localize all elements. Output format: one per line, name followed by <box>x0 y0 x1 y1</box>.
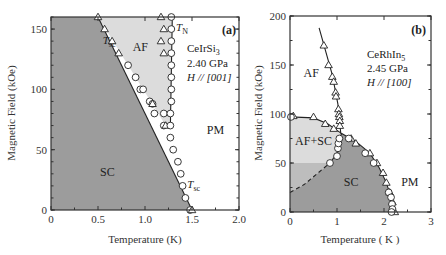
x-tick-label: 2.0 <box>232 213 246 225</box>
x-tick-label: 0 <box>48 213 54 225</box>
y-axis-label: Magnetic Field (kOe) <box>252 65 265 161</box>
data-point-circle <box>125 62 132 69</box>
x-axis-label: Temperature (K) <box>108 233 182 246</box>
x-tick-label: 2 <box>381 215 387 227</box>
data-point-circle <box>388 194 395 201</box>
field-direction-label: H // [100] <box>366 76 412 88</box>
x-tick-label: 1.5 <box>185 213 199 225</box>
y-tick-label: 0 <box>281 206 287 218</box>
y-tick-label: 100 <box>270 108 287 120</box>
data-point-circle <box>168 98 175 105</box>
data-point-circle <box>177 170 184 177</box>
region-label-pm: PM <box>401 175 419 189</box>
data-point-circle <box>167 134 174 141</box>
data-point-circle <box>132 74 139 81</box>
pressure-label: 2.45 GPa <box>367 62 408 74</box>
data-point-triangle <box>320 42 328 48</box>
panel-label: (b) <box>411 23 426 37</box>
compound-label: CeRhIn5 <box>367 48 405 63</box>
x-tick-label: 0 <box>287 215 293 227</box>
data-point-circle <box>370 160 377 167</box>
data-point-circle <box>345 135 352 142</box>
y-tick-label: 150 <box>31 23 48 35</box>
data-point-circle <box>334 153 341 160</box>
x-tick-label: 1.0 <box>138 213 152 225</box>
annotation-Tsc: Tsc <box>187 178 200 193</box>
data-point-circle <box>168 62 175 69</box>
panel-label: (a) <box>222 23 236 37</box>
y-tick-label: 50 <box>36 144 48 156</box>
data-point-triangle <box>310 113 318 119</box>
phase-diagram-figure: 00.51.01.52.0050100150 Magnetic Field (k… <box>0 0 446 255</box>
data-point-triangle <box>329 73 337 79</box>
data-point-circle <box>140 86 147 93</box>
region-label-sc: SC <box>100 165 115 179</box>
region-label-af-sc: AF+SC <box>295 134 332 148</box>
region-label-pm: PM <box>207 123 225 137</box>
pressure-label: 2.40 GPa <box>187 57 228 69</box>
region-label-af: AF <box>303 66 319 80</box>
x-tick-label: 3 <box>428 215 434 227</box>
y-tick-label: 150 <box>270 59 287 71</box>
region-label-sc: SC <box>344 175 359 189</box>
data-point-circle <box>288 114 295 121</box>
data-point-circle <box>170 146 177 153</box>
data-point-circle <box>362 150 369 157</box>
data-point-circle <box>179 182 186 189</box>
data-point-circle <box>167 110 174 117</box>
region-label-af: AF <box>133 40 149 54</box>
data-point-circle <box>168 38 175 45</box>
data-point-circle <box>160 110 167 117</box>
annotation-TN: TN <box>176 21 188 36</box>
x-tick-label: 0.5 <box>91 213 105 225</box>
x-axis-label: Temperature ( K ) <box>321 233 400 246</box>
data-point-circle <box>151 110 158 117</box>
y-tick-label: 100 <box>31 83 48 95</box>
y-axis-label: Magnetic Field (kOe) <box>5 65 18 161</box>
data-point-circle <box>182 195 189 202</box>
x-tick-label: 1 <box>334 215 340 227</box>
panel-b: 0123050100150200 Magnetic Field (kOe) Te… <box>252 10 434 246</box>
data-point-circle <box>167 122 174 129</box>
data-point-circle <box>168 86 175 93</box>
data-point-triangle <box>325 61 333 67</box>
compound-label: CeIrSi3 <box>187 42 220 57</box>
y-tick-label: 0 <box>42 204 48 216</box>
data-point-circle <box>168 26 175 33</box>
data-point-circle <box>336 135 343 142</box>
field-direction-label: H // [001] <box>186 71 232 83</box>
data-point-circle <box>168 74 175 81</box>
y-tick-label: 200 <box>270 10 287 22</box>
y-tick-label: 50 <box>275 157 287 169</box>
data-point-circle <box>327 160 334 167</box>
data-point-circle <box>175 158 182 165</box>
data-point-circle <box>168 50 175 57</box>
panel-a: 00.51.01.52.0050100150 Magnetic Field (k… <box>5 13 246 246</box>
